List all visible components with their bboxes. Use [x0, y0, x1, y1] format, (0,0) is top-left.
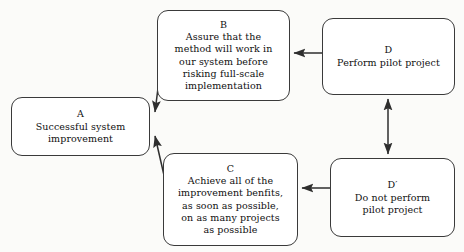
node-b-label: B: [220, 19, 227, 31]
node-a-successful-system-improvement[interactable]: A Successful system improvement: [11, 97, 150, 156]
node-dprime-line-1: Do not perform: [355, 192, 430, 204]
node-c-text: Achieve all of the improvement benfits, …: [173, 175, 288, 236]
node-d-perform-pilot-project[interactable]: D Perform pilot project: [322, 18, 455, 95]
node-a-line-1: Successful system: [36, 121, 126, 133]
node-d-label: D: [385, 44, 393, 56]
node-c-line-2: improvement benfits,: [178, 187, 283, 199]
node-dprime-text: Do not perform pilot project: [350, 192, 435, 216]
node-b-line-2: method will work in: [175, 43, 273, 55]
node-dprime-line-2: pilot project: [355, 204, 430, 216]
diagram-canvas: A Successful system improvement B Assure…: [0, 0, 464, 252]
node-c-achieve-improvement-benefits[interactable]: C Achieve all of the improvement benfits…: [163, 153, 298, 246]
node-b-line-5: implementation: [175, 80, 273, 92]
node-c-line-3: as soon as possible,: [178, 200, 283, 212]
node-dprime-do-not-perform-pilot-project[interactable]: D′ Do not perform pilot project: [330, 158, 455, 237]
node-a-text: Successful system improvement: [31, 121, 131, 145]
node-a-label: A: [77, 108, 84, 120]
node-d-text: Perform pilot project: [332, 57, 445, 69]
node-b-line-1: Assure that the: [175, 31, 273, 43]
node-c-label: C: [227, 163, 234, 175]
node-dprime-label: D′: [387, 179, 397, 191]
node-b-assure-method-works[interactable]: B Assure that the method will work in ou…: [157, 10, 290, 101]
node-a-line-2: improvement: [36, 133, 126, 145]
node-c-line-1: Achieve all of the: [178, 175, 283, 187]
node-b-text: Assure that the method will work in our …: [170, 31, 278, 92]
node-c-line-4: on as many projects: [178, 212, 283, 224]
node-b-line-3: our system before: [175, 56, 273, 68]
node-d-line-1: Perform pilot project: [337, 57, 440, 69]
node-c-line-5: as possible: [178, 224, 283, 236]
node-b-line-4: risking full-scale: [175, 68, 273, 80]
